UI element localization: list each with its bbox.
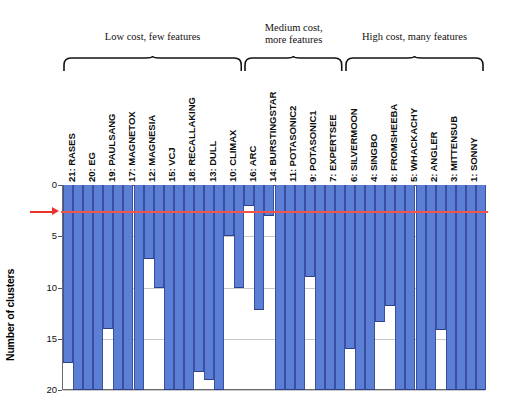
- bar: [405, 185, 415, 390]
- bar: [174, 185, 184, 390]
- category-label: 11: POTASONIC2: [287, 106, 298, 182]
- category-label: 17: MAGNETOX: [126, 111, 137, 182]
- bar: [335, 185, 345, 390]
- bar: [416, 185, 426, 390]
- bar: [345, 185, 355, 349]
- category-label: 21: RASES: [66, 133, 77, 182]
- bar: [93, 185, 103, 390]
- bar: [254, 185, 264, 310]
- category-label: 7: EXPERTSEE: [327, 114, 338, 182]
- bar: [123, 185, 133, 390]
- bar: [144, 185, 154, 259]
- bar: [204, 185, 214, 380]
- bar: [275, 185, 285, 390]
- bar: [456, 185, 466, 390]
- category-label: 13: DULL: [207, 141, 218, 182]
- bar: [113, 185, 123, 390]
- threshold-arrow-head: [52, 207, 59, 215]
- category-label: 5: WHACKACHY: [408, 108, 419, 182]
- category-label: 6: SILVERMOON: [348, 108, 359, 182]
- category-label: 1: SONNY: [468, 137, 479, 182]
- bar-chart-plot-area: [62, 185, 485, 390]
- category-label: 19: PAULSANG: [106, 114, 117, 182]
- bar: [295, 185, 305, 390]
- y-axis-tick-label: 10: [35, 282, 57, 293]
- bar: [214, 185, 224, 390]
- category-label: 8: FROMSHEEBA: [388, 104, 399, 182]
- bar: [194, 185, 204, 372]
- bar: [164, 185, 174, 390]
- bar: [385, 185, 395, 306]
- bar: [395, 185, 405, 390]
- category-label: 12: MAGNESIA: [146, 115, 157, 182]
- bar: [375, 185, 385, 322]
- category-label: 16: ARC: [247, 146, 258, 182]
- bar: [426, 185, 436, 390]
- y-axis-tick-mark: [58, 390, 62, 391]
- bar: [365, 185, 375, 390]
- bar: [355, 185, 365, 390]
- y-axis-tick-label: 20: [35, 384, 57, 395]
- bar: [134, 185, 144, 390]
- y-axis-tick-label: 0: [35, 179, 57, 190]
- y-axis-title: Number of clusters: [4, 269, 16, 361]
- category-label: 15: VCJ: [166, 148, 177, 183]
- bar: [305, 185, 315, 277]
- bar: [234, 185, 244, 288]
- bar: [83, 185, 93, 390]
- bar: [466, 185, 476, 390]
- threshold-line: [61, 211, 488, 213]
- category-label: 14: BURSTINGSTAR: [267, 92, 278, 182]
- y-axis-tick-label: 15: [35, 333, 57, 344]
- y-axis-tick-label: 5: [35, 230, 57, 241]
- category-label: 3: MITTENSUB: [448, 116, 459, 182]
- bar: [315, 185, 325, 390]
- category-label: 4: SINGBO: [368, 134, 379, 182]
- category-label: 2: ANGLER: [428, 132, 439, 182]
- bar: [244, 185, 254, 206]
- bar: [476, 185, 486, 390]
- threshold-arrow-shaft: [30, 211, 54, 213]
- bar: [436, 185, 446, 330]
- bar: [325, 185, 335, 390]
- bar: [285, 185, 295, 390]
- bar: [103, 185, 113, 329]
- bar: [73, 185, 83, 390]
- bar: [184, 185, 194, 390]
- category-label: 9: POTASONIC1: [307, 110, 318, 182]
- gridline: [63, 390, 485, 391]
- category-label: 10: CLIMAX: [227, 130, 238, 182]
- bar: [154, 185, 164, 288]
- category-label: 20: EG: [86, 152, 97, 182]
- category-label: 18: RECALLAKING: [186, 97, 197, 182]
- bar: [446, 185, 456, 390]
